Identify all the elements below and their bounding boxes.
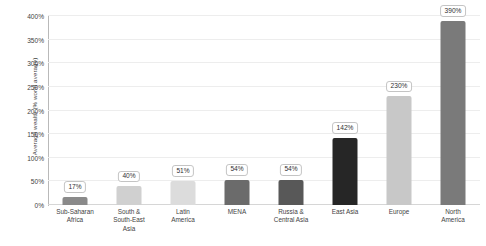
bar[interactable] (171, 181, 196, 205)
bar[interactable] (63, 197, 88, 205)
x-axis-label-line: South & (102, 208, 156, 216)
bar-slot: 54% (264, 16, 318, 205)
y-tick-label: 200% (2, 107, 44, 114)
x-axis-label: NorthAmerica (426, 208, 480, 225)
x-axis-label-line: America (156, 216, 210, 224)
y-tick-label: 100% (2, 154, 44, 161)
y-tick-label: 400% (2, 13, 44, 20)
x-axis-label-line: MENA (210, 208, 264, 216)
y-tick-label: 250% (2, 83, 44, 90)
bar-value-label: 40% (118, 171, 140, 183)
bar-value-label: 54% (226, 164, 248, 176)
y-tick-label: 350% (2, 36, 44, 43)
bar-chart: Average wealth (% world average) 0%50%10… (0, 0, 486, 246)
x-axis-label: South &South-EastAsia (102, 208, 156, 233)
bar[interactable] (279, 180, 304, 206)
bar-slot: 40% (102, 16, 156, 205)
x-axis-label-line: South-East (102, 216, 156, 224)
x-axis-label: LatinAmerica (156, 208, 210, 225)
bar-slot: 17% (48, 16, 102, 205)
x-axis-label-line: America (426, 216, 480, 224)
bar-value-label: 390% (440, 5, 466, 17)
bar[interactable] (117, 186, 142, 205)
x-axis-label-line: Sub-Saharan (48, 208, 102, 216)
bars-layer: 17%40%51%54%54%142%230%390% (48, 16, 480, 205)
x-axis-label: Europe (372, 208, 426, 216)
x-axis-label: Russia &Central Asia (264, 208, 318, 225)
bar-slot: 54% (210, 16, 264, 205)
x-axis-label-line: East Asia (318, 208, 372, 216)
y-tick-label: 150% (2, 131, 44, 138)
bar-value-label: 51% (172, 165, 194, 177)
x-axis-label-line: Latin (156, 208, 210, 216)
x-axis-label: Sub-SaharanAfrica (48, 208, 102, 225)
bar-slot: 390% (426, 16, 480, 205)
bar-slot: 230% (372, 16, 426, 205)
x-axis-label: East Asia (318, 208, 372, 216)
x-axis-label-line: Asia (102, 225, 156, 233)
x-axis-category-labels: Sub-SaharanAfricaSouth &South-EastAsiaLa… (48, 208, 480, 246)
bar[interactable] (387, 96, 412, 205)
bar-value-label: 17% (64, 181, 86, 193)
y-tick-label: 300% (2, 60, 44, 67)
bar[interactable] (225, 180, 250, 206)
x-axis-label-line: Africa (48, 216, 102, 224)
x-axis-label-line: Europe (372, 208, 426, 216)
bar[interactable] (333, 138, 358, 205)
y-tick-label: 50% (2, 178, 44, 185)
x-axis-label-line: Central Asia (264, 216, 318, 224)
bar-value-label: 54% (280, 164, 302, 176)
x-axis-label-line: Russia & (264, 208, 318, 216)
plot-area: 17%40%51%54%54%142%230%390% (48, 16, 480, 205)
x-axis-label-line: North (426, 208, 480, 216)
bar-value-label: 230% (386, 81, 412, 93)
bar[interactable] (441, 21, 466, 205)
y-axis-tick-labels: 0%50%100%150%200%250%300%350%400% (0, 16, 44, 205)
x-axis-label: MENA (210, 208, 264, 216)
bar-value-label: 142% (332, 122, 358, 134)
bar-slot: 51% (156, 16, 210, 205)
y-tick-label: 0% (2, 202, 44, 209)
bar-slot: 142% (318, 16, 372, 205)
